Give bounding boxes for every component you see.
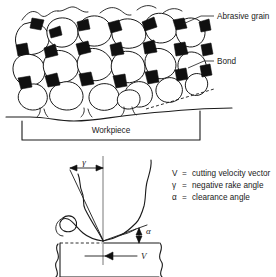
abrasive-grain bbox=[117, 90, 140, 109]
bond-nub bbox=[81, 108, 84, 117]
legend-definition-1: negative rake angle bbox=[192, 181, 264, 190]
bond-post bbox=[16, 43, 29, 56]
single-grain-cutting: γ α V bbox=[55, 156, 162, 277]
grain-boundary-strand bbox=[100, 8, 131, 16]
gamma-arrow-right bbox=[96, 165, 103, 171]
gamma-symbol: γ bbox=[82, 157, 86, 167]
bond-post bbox=[77, 19, 90, 31]
legend-equals-2: = bbox=[182, 193, 187, 202]
bond-nub bbox=[44, 109, 48, 117]
bond-post bbox=[200, 64, 212, 77]
legend-definition-0: cutting velocity vector bbox=[192, 169, 271, 178]
grain-rake-face-profile bbox=[78, 174, 103, 241]
workpiece-break-line-left bbox=[55, 244, 58, 277]
gamma-arrow-left bbox=[70, 165, 77, 171]
bond-post bbox=[18, 76, 32, 89]
bond-label: Bond bbox=[217, 57, 237, 66]
bond-nub bbox=[88, 109, 92, 117]
bond-post bbox=[79, 72, 94, 86]
grain-boundary-strand bbox=[22, 11, 58, 20]
legend-equals-0: = bbox=[182, 169, 187, 178]
grain-boundary-strand bbox=[58, 7, 88, 12]
grain-bond-structure bbox=[13, 6, 214, 117]
grain-flank-profile bbox=[103, 160, 151, 241]
bond-post bbox=[199, 19, 211, 32]
bond-post bbox=[175, 68, 188, 81]
bond-post bbox=[145, 70, 159, 84]
alpha-symbol: α bbox=[146, 226, 151, 236]
legend: V = cutting velocity vector γ = negative… bbox=[172, 169, 271, 202]
legend-symbol-2: α bbox=[172, 193, 177, 202]
chip-curl-inner bbox=[56, 218, 63, 236]
technical-figure-grinding: Abrasive grain Bond Workpiece γ bbox=[0, 0, 276, 277]
legend-equals-1: = bbox=[182, 181, 187, 190]
alpha-arrow-down bbox=[136, 236, 142, 243]
legend-definition-2: clearance angle bbox=[192, 193, 250, 202]
legend-symbol-0: V bbox=[172, 169, 178, 178]
velocity-arrowhead bbox=[105, 252, 113, 260]
velocity-symbol: V bbox=[141, 251, 148, 261]
workpiece-break-line-right bbox=[159, 243, 162, 277]
abrasive-grain bbox=[89, 84, 119, 111]
grain-boundary-strand bbox=[162, 9, 182, 14]
abrasive-grain bbox=[156, 78, 182, 103]
grain-boundary-strand bbox=[137, 6, 156, 10]
bond-post bbox=[113, 74, 127, 88]
figure-canvas: Abrasive grain Bond Workpiece γ bbox=[0, 0, 276, 277]
workpiece-label: Workpiece bbox=[92, 126, 131, 135]
bond-post bbox=[201, 43, 213, 56]
abrasive-grain-label: Abrasive grain bbox=[217, 12, 270, 21]
legend-symbol-1: γ bbox=[172, 181, 177, 190]
